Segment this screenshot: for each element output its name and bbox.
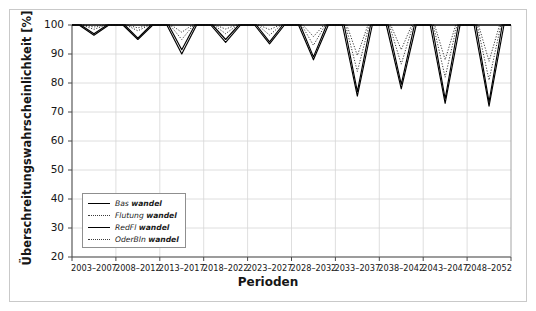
x-tick-label: 2028–2032 <box>291 263 337 273</box>
y-tick-label: 40 <box>36 192 64 204</box>
x-tick-label: 2033–2037 <box>334 263 380 273</box>
y-axis-title: Überschreitungswahrscheinlichkeit [%] <box>20 11 34 266</box>
y-tick-label: 20 <box>36 250 64 262</box>
chart-figure: Überschreitungswahrscheinlichkeit [%] Pe… <box>0 0 536 311</box>
x-tick-label: 2003–2007 <box>71 263 117 273</box>
x-tick-label: 2043–2047 <box>422 263 468 273</box>
x-axis-title: Perioden <box>0 275 536 289</box>
y-tick-label: 30 <box>36 221 64 233</box>
legend-item-flutung-wandel: Flutung wandel <box>88 210 180 222</box>
legend-item-redfl-wandel: RedFl wandel <box>88 222 180 234</box>
x-tick-label: 2023–2027 <box>247 263 293 273</box>
y-tick-label: 50 <box>36 163 64 175</box>
y-tick-label: 100 <box>36 18 64 30</box>
legend-label-flutung-wandel: Flutung wandel <box>115 211 177 220</box>
legend-line-sample-solid-icon <box>88 199 110 209</box>
x-tick-label: 2048–2052 <box>466 263 512 273</box>
x-tick-label: 2038–2042 <box>378 263 424 273</box>
y-tick-label: 90 <box>36 47 64 59</box>
y-tick-label: 80 <box>36 76 64 88</box>
y-tick-label: 60 <box>36 134 64 146</box>
legend-item-bas-wandel: Bas wandel <box>88 198 180 210</box>
legend-item-oderbln-wandel: OderBln wandel <box>88 234 180 246</box>
y-tick-label: 70 <box>36 105 64 117</box>
chart-legend: Bas wandel Flutung wandel RedFl wandel O… <box>82 193 186 248</box>
legend-label-bas-wandel: Bas wandel <box>115 199 162 208</box>
x-tick-label: 2008–2012 <box>115 263 161 273</box>
legend-line-sample-dotted-icon <box>88 235 110 245</box>
legend-label-redfl-wandel: RedFl wandel <box>115 223 169 232</box>
legend-line-sample-solid-icon <box>88 223 110 233</box>
legend-line-sample-dotted-icon <box>88 211 110 221</box>
x-tick-label: 2018–2022 <box>203 263 249 273</box>
x-tick-label: 2013–2017 <box>159 263 205 273</box>
legend-label-oderbln-wandel: OderBln wandel <box>115 235 179 244</box>
